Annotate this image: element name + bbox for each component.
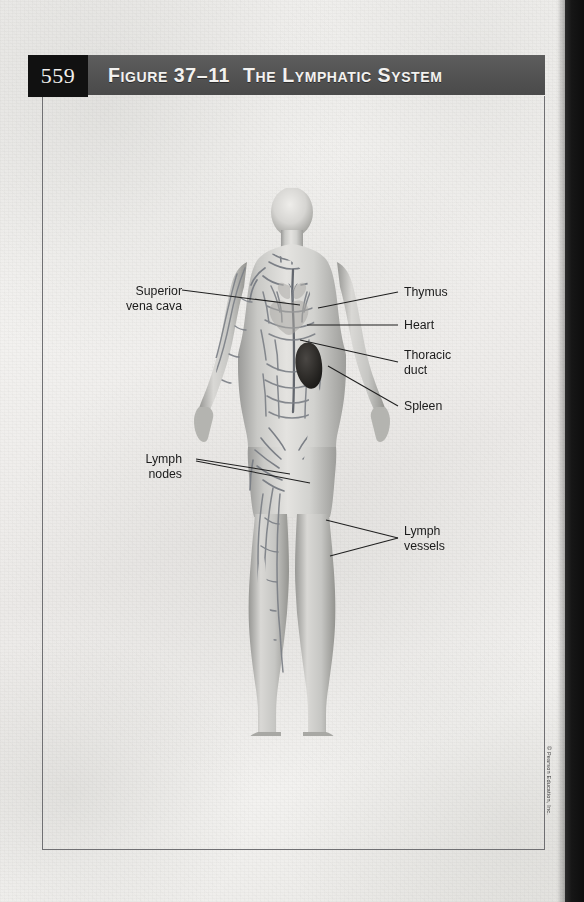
label-lymph-vessels: Lymph vessels bbox=[404, 524, 445, 553]
label-spleen: Spleen bbox=[404, 399, 442, 414]
figure-label: Figure 37–11 bbox=[108, 64, 230, 87]
page-gutter-shadow bbox=[557, 0, 565, 902]
label-lymph-nodes: Lymph nodes bbox=[118, 452, 182, 481]
page-number-box: 559 bbox=[28, 55, 88, 97]
copyright-credit: © Pearson Education, Inc. bbox=[546, 746, 552, 856]
page-number: 559 bbox=[41, 63, 76, 89]
figure-title-text: The Lymphatic System bbox=[243, 64, 442, 87]
textbook-page: 559 Figure 37–11 The Lymphatic System bbox=[0, 0, 584, 902]
figure-title: Figure 37–11 The Lymphatic System bbox=[108, 55, 442, 95]
lymphatic-system-illustration bbox=[185, 188, 400, 736]
label-thymus: Thymus bbox=[404, 285, 448, 300]
page-gutter-edge bbox=[565, 0, 584, 902]
label-heart: Heart bbox=[404, 318, 434, 333]
label-thoracic-duct: Thoracic duct bbox=[404, 348, 451, 377]
label-superior-vena-cava: Superior vena cava bbox=[104, 284, 182, 313]
